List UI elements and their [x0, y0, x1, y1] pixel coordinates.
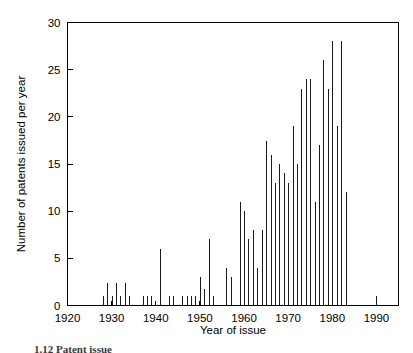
- x-tick-label: 1930: [99, 312, 125, 324]
- y-axis-ticks: 051015202530: [48, 17, 73, 312]
- x-tick-label: 1990: [364, 312, 390, 324]
- x-tick-label: 1970: [275, 312, 301, 324]
- y-tick-label: 20: [48, 111, 61, 123]
- x-axis-title: Year of issue: [200, 324, 266, 336]
- x-tick-label: 1950: [187, 312, 213, 324]
- bar-series: [104, 41, 377, 305]
- y-tick-label: 0: [54, 300, 60, 312]
- x-axis-ticks: 19201930194019501960197019801990: [55, 301, 390, 324]
- figure-container: 051015202530 192019301940195019601970198…: [0, 0, 413, 353]
- y-axis-title: Number of patents issued per year: [15, 76, 27, 253]
- x-tick-label: 1960: [231, 312, 257, 324]
- plot-frame: [68, 23, 399, 306]
- patents-per-year-bar-chart: 051015202530 192019301940195019601970198…: [0, 0, 413, 345]
- figure-caption-strip: 1.12 Patent issue: [0, 344, 413, 353]
- y-tick-label: 30: [48, 17, 61, 29]
- y-tick-label: 15: [48, 158, 61, 170]
- y-tick-label: 25: [48, 64, 61, 76]
- x-tick-label: 1940: [143, 312, 169, 324]
- x-tick-label: 1980: [320, 312, 346, 324]
- y-tick-label: 10: [48, 205, 61, 217]
- x-tick-label: 1920: [55, 312, 81, 324]
- y-tick-label: 5: [54, 252, 60, 264]
- figure-caption: 1.12 Patent issue: [0, 344, 413, 353]
